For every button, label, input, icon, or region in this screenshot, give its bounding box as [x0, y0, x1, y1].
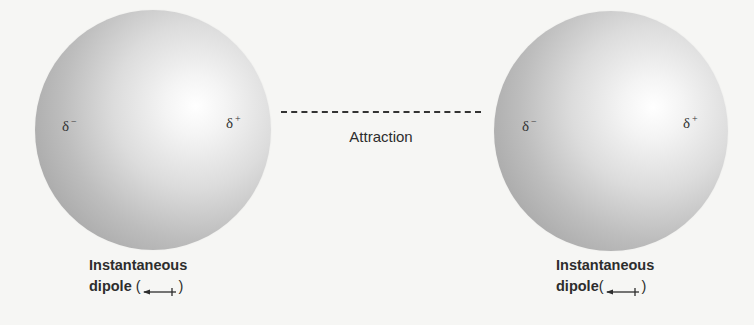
right-caption-line1: Instantaneous — [556, 255, 654, 276]
left-atom-caption: Instantaneous dipole () — [89, 255, 187, 297]
right-atom-caption: Instantaneous dipole() — [556, 255, 654, 297]
left-delta-plus-label: δ+ — [226, 113, 241, 132]
dipole-arrow-icon — [605, 282, 641, 292]
attraction-label: Attraction — [281, 128, 481, 145]
right-delta-plus-label: δ+ — [683, 113, 698, 132]
left-delta-minus-label: δ− — [62, 116, 77, 135]
left-caption-line2: dipole () — [89, 276, 187, 297]
right-caption-line2: dipole() — [556, 276, 654, 297]
attraction-dashed-line — [281, 111, 481, 113]
left-caption-line1: Instantaneous — [89, 255, 187, 276]
right-delta-minus-label: δ− — [522, 116, 537, 135]
dipole-arrow-icon — [142, 282, 178, 292]
